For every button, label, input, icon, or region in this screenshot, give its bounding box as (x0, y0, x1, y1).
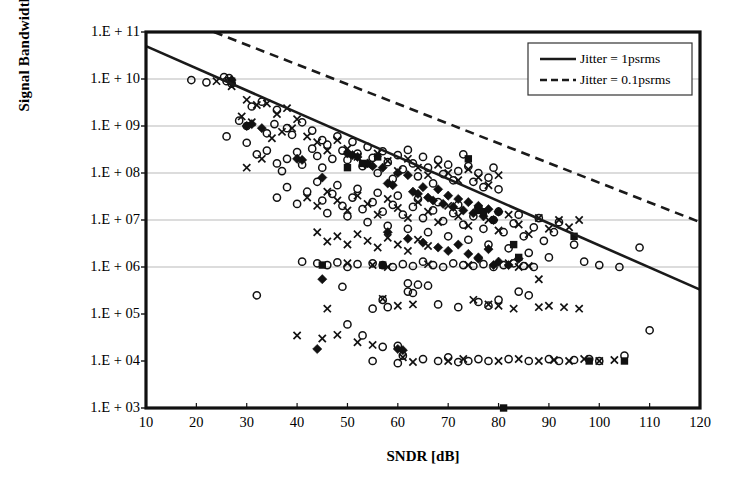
legend-label-1: Jitter = 1psrms (580, 51, 660, 67)
chart-figure: Signal Bandwidth [Hz] 1.E + 111.E + 101.… (0, 0, 742, 491)
data-markers (188, 73, 654, 411)
legend-label-2: Jitter = 0.1psrms (580, 72, 671, 88)
